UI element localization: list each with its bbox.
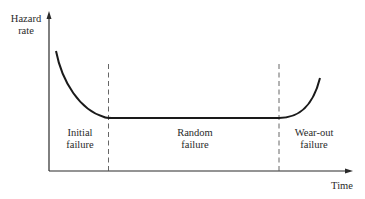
region-wearout-label: Wear-out failure: [284, 127, 344, 151]
region-wearout-line2: failure: [284, 139, 344, 151]
region-random-line1: Random: [160, 127, 230, 139]
region-random-label: Random failure: [160, 127, 230, 151]
y-axis-arrow-icon: [47, 11, 52, 19]
y-axis-label: Hazard rate: [6, 13, 46, 37]
hazard-curve: [56, 51, 320, 118]
bathtub-chart: [0, 0, 365, 199]
y-axis-label-line1: Hazard: [6, 13, 46, 25]
y-axis-label-line2: rate: [6, 25, 46, 37]
x-axis-arrow-icon: [345, 169, 353, 174]
region-wearout-line1: Wear-out: [284, 127, 344, 139]
region-random-line2: failure: [160, 139, 230, 151]
x-axis-label: Time: [325, 180, 359, 192]
region-initial-line1: Initial: [56, 127, 104, 139]
region-initial-line2: failure: [56, 139, 104, 151]
region-initial-label: Initial failure: [56, 127, 104, 151]
